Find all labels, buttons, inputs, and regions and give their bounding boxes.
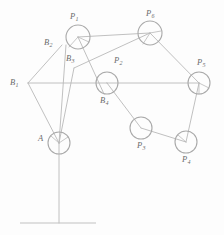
label-B1-base: B xyxy=(10,77,15,87)
hatch-P5-hatch-b xyxy=(199,83,209,88)
label-P5: P5 xyxy=(197,58,205,67)
label-P1-base: P xyxy=(70,11,75,21)
label-P4-subscript: 4 xyxy=(188,159,191,165)
link-P1-P6 xyxy=(78,33,150,37)
hatch-A-hatch-a xyxy=(51,136,59,143)
label-B2-subscript: 2 xyxy=(50,42,53,48)
mechanism-diagram xyxy=(0,0,224,235)
label-P5-subscript: 5 xyxy=(203,62,206,68)
label-B2: B2 xyxy=(44,38,52,47)
label-A-base: A xyxy=(38,133,43,143)
link-P3-P4 xyxy=(141,128,186,142)
link-B1-B2 xyxy=(28,45,62,83)
label-P6-base: P xyxy=(146,8,151,18)
label-B2-base: B xyxy=(44,37,49,47)
link-B1-A xyxy=(28,83,59,143)
label-B3-base: B xyxy=(66,53,71,63)
label-B1: B1 xyxy=(10,78,18,87)
label-B3: B3 xyxy=(66,54,74,63)
label-A: A xyxy=(38,134,43,143)
hatch-P1-hatch-a xyxy=(69,37,78,47)
label-B3-subscript: 3 xyxy=(72,58,75,64)
joints-group xyxy=(48,21,210,154)
label-P6: P6 xyxy=(146,9,154,18)
label-P5-base: P xyxy=(197,57,202,67)
label-B1-subscript: 1 xyxy=(16,82,19,88)
hatch-P6-hatch-b xyxy=(150,31,161,33)
label-P3: P3 xyxy=(137,141,145,150)
mechanism-figure: P1P6P5B4P3P4AB1B2B3P2 xyxy=(0,0,224,235)
label-P2-base: P xyxy=(114,55,119,65)
label-B4-subscript: 4 xyxy=(106,100,109,106)
label-B4: B4 xyxy=(100,96,108,105)
link-B4-P3 xyxy=(107,83,141,128)
label-P2-subscript: 2 xyxy=(120,60,123,66)
link-P1-B4 xyxy=(78,37,104,94)
label-P3-base: P xyxy=(137,140,142,150)
label-P6-subscript: 6 xyxy=(152,13,155,19)
label-P3-subscript: 3 xyxy=(143,145,146,151)
label-B4-base: B xyxy=(100,95,105,105)
label-P4-base: P xyxy=(182,154,187,164)
label-P2: P2 xyxy=(114,56,122,65)
link-B3-P6 xyxy=(74,33,150,68)
link-A-B2 xyxy=(59,45,66,143)
label-P1: P1 xyxy=(70,12,78,21)
label-P1-subscript: 1 xyxy=(76,16,79,22)
label-P4: P4 xyxy=(182,155,190,164)
